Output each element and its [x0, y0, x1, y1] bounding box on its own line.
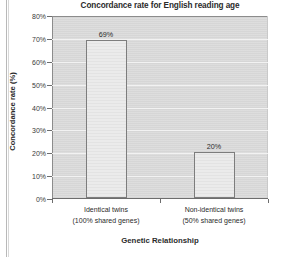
gridline: [52, 62, 268, 63]
y-axis-tick-mark: [47, 108, 52, 109]
y-axis-tick-label: 40%: [32, 104, 46, 111]
category-label-line1: Non-identical twins: [185, 206, 244, 213]
x-axis-tick-mark: [268, 199, 269, 203]
category-label-line1: Identical twins: [84, 206, 128, 213]
y-axis-title: Concordance rate (%): [8, 42, 17, 182]
bar-texture: [87, 41, 126, 197]
y-axis-tick-label: 80%: [32, 13, 46, 20]
y-axis-tick-mark: [47, 85, 52, 86]
y-axis-tick-label: 70%: [32, 35, 46, 42]
gridline: [52, 39, 268, 40]
x-axis-category-label: Identical twins(100% shared genes): [52, 205, 160, 226]
y-axis-tick-label: 10%: [32, 173, 46, 180]
y-axis-tick-mark: [47, 16, 52, 17]
bar: [86, 40, 127, 198]
chart-figure: Concordance rate for English reading age…: [0, 0, 283, 257]
x-axis-tick-mark: [52, 199, 53, 203]
x-axis-tick-mark: [160, 199, 161, 203]
y-axis-tick-label: 60%: [32, 58, 46, 65]
y-axis-tick-mark: [47, 130, 52, 131]
y-axis-tick-mark: [47, 39, 52, 40]
x-axis-category-label: Non-identical twins(50% shared genes): [160, 205, 268, 226]
y-axis-tick-label: 20%: [32, 150, 46, 157]
bar-value-label: 20%: [194, 142, 234, 151]
gridline: [52, 85, 268, 86]
bar: [194, 152, 235, 198]
chart-title: Concordance rate for English reading age: [52, 1, 268, 10]
y-axis-tick-mark: [47, 153, 52, 154]
y-axis-tick-label: 50%: [32, 81, 46, 88]
y-axis-tick-mark: [47, 62, 52, 63]
plot-area: 69%20%: [52, 16, 268, 199]
category-label-line2: (50% shared genes): [160, 216, 268, 227]
gridline: [52, 153, 268, 154]
gridline: [52, 108, 268, 109]
plot-top-border: [52, 16, 268, 17]
gridline: [52, 176, 268, 177]
category-label-line2: (100% shared genes): [52, 216, 160, 227]
y-axis-tick-labels: 0%10%20%30%40%50%60%70%80%: [22, 16, 46, 199]
gridline: [52, 130, 268, 131]
bar-texture: [195, 153, 234, 197]
bar-value-label: 69%: [86, 30, 126, 39]
y-axis-tick-mark: [47, 176, 52, 177]
y-axis-tick-label: 30%: [32, 127, 46, 134]
x-axis-title: Genetic Relationship: [52, 236, 268, 245]
y-axis-tick-label: 0%: [36, 196, 46, 203]
